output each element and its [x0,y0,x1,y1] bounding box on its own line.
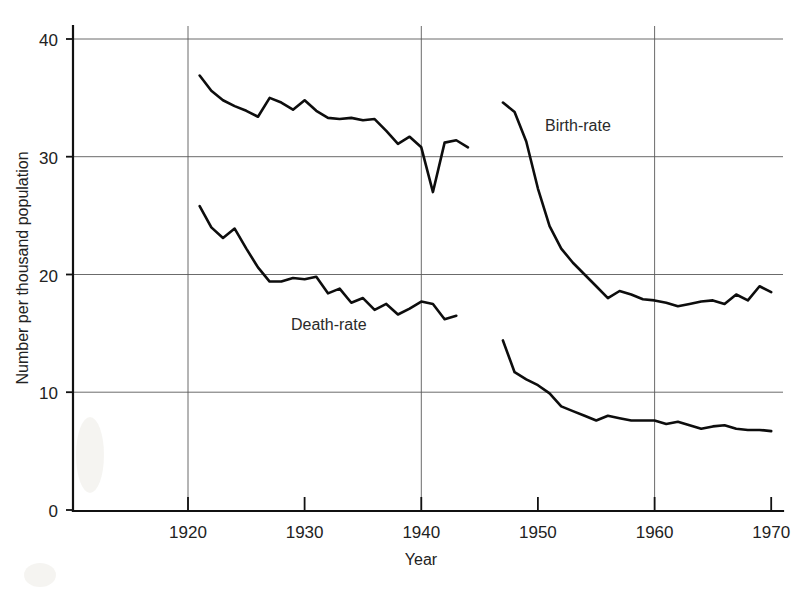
horizontal-gridlines [73,39,783,392]
xtick-label-1920: 1920 [169,523,207,542]
ytick-label-30: 30 [39,149,58,168]
x-tickmarks [188,497,771,511]
birth-rate-label: Birth-rate [545,117,611,134]
paper-texture [24,417,104,587]
xtick-label-1960: 1960 [636,523,674,542]
ytick-label-10: 10 [39,384,58,403]
y-tick-labels: 40 30 20 10 0 [39,31,58,521]
ytick-label-0: 0 [49,502,58,521]
line-chart-plot: 40 30 20 10 0 1920 1930 1940 1950 1960 1… [0,0,803,592]
death-rate-segment-1 [200,206,457,319]
xtick-label-1940: 1940 [402,523,440,542]
xtick-label-1950: 1950 [519,523,557,542]
data-series-layer [200,76,772,432]
birth-rate-segment-1 [200,76,468,193]
y-axis-title: Number per thousand population [14,151,31,384]
x-tick-labels: 1920 1930 1940 1950 1960 1970 [169,523,790,542]
chart-figure: 40 30 20 10 0 1920 1930 1940 1950 1960 1… [0,0,803,592]
ytick-label-40: 40 [39,31,58,50]
ytick-label-20: 20 [39,267,58,286]
x-axis-title: Year [405,551,438,568]
axis-lines [73,26,783,511]
birth-rate-segment-2 [503,103,771,307]
death-rate-segment-2 [503,340,771,431]
death-rate-label: Death-rate [291,316,367,333]
xtick-label-1930: 1930 [286,523,324,542]
xtick-label-1970: 1970 [752,523,790,542]
